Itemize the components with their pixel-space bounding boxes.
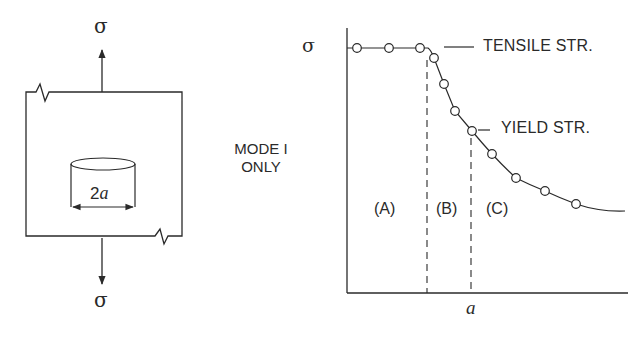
tensile-strength-annotation: TENSILE STR. bbox=[483, 37, 593, 55]
top-stress-label: σ bbox=[94, 14, 108, 38]
crack-length-var: a bbox=[99, 183, 108, 203]
region-a-label: (A) bbox=[374, 200, 395, 218]
data-point bbox=[430, 54, 439, 63]
data-point bbox=[451, 107, 460, 116]
data-point bbox=[440, 80, 449, 89]
data-point bbox=[541, 187, 550, 196]
data-point bbox=[512, 174, 521, 183]
data-point bbox=[488, 150, 497, 159]
y-axis-label: σ bbox=[302, 34, 315, 56]
data-point bbox=[416, 44, 425, 53]
mode-note: MODE I ONLY bbox=[226, 140, 296, 176]
data-point bbox=[572, 200, 581, 209]
region-b-label: (B) bbox=[436, 200, 457, 218]
data-point bbox=[468, 127, 477, 136]
data-point bbox=[385, 44, 394, 53]
specimen-diagram bbox=[26, 50, 182, 284]
mode-note-line1: MODE I bbox=[226, 140, 296, 158]
crack-length-label: 2a bbox=[90, 183, 108, 204]
mode-note-line2: ONLY bbox=[226, 158, 296, 176]
bottom-stress-label: σ bbox=[94, 288, 108, 312]
data-point bbox=[353, 44, 362, 53]
yield-strength-annotation: YIELD STR. bbox=[501, 119, 590, 137]
stress-vs-crack-plot bbox=[347, 28, 628, 293]
region-c-label: (C) bbox=[486, 200, 508, 218]
x-axis-label: a bbox=[466, 297, 476, 319]
